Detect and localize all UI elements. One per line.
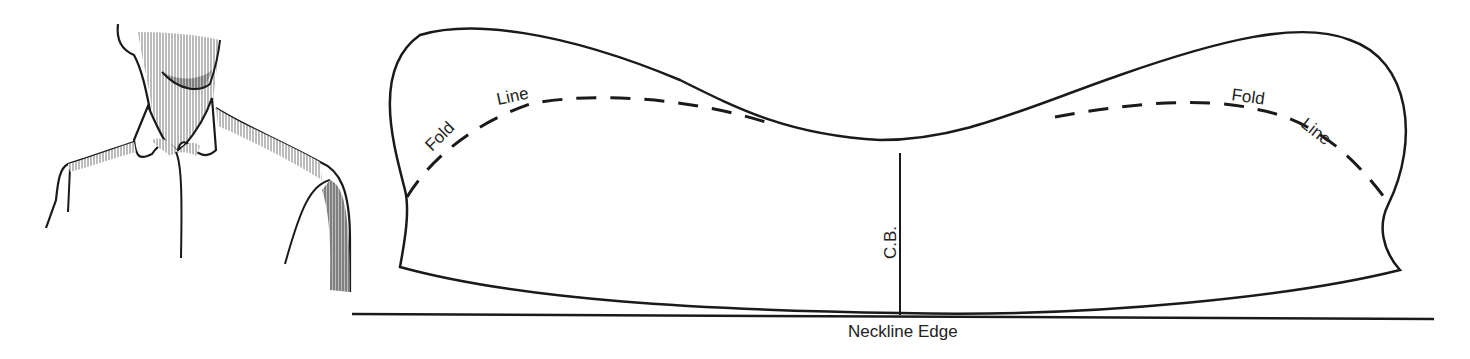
collar-pattern-figure: Fold Line Fold Line C.B. Neckline Edge xyxy=(0,0,1470,359)
shirt-placket xyxy=(176,152,181,258)
collar-outline xyxy=(390,29,1406,314)
neckline-edge-label: Neckline Edge xyxy=(848,322,958,341)
figure-canvas: Fold Line Fold Line C.B. Neckline Edge xyxy=(0,0,1470,359)
collar-pattern-piece: Fold Line Fold Line C.B. Neckline Edge xyxy=(352,29,1434,341)
center-back-label: C.B. xyxy=(881,226,900,259)
neckline-edge-line xyxy=(352,314,1434,319)
shirt-collar-illustration xyxy=(46,24,350,292)
